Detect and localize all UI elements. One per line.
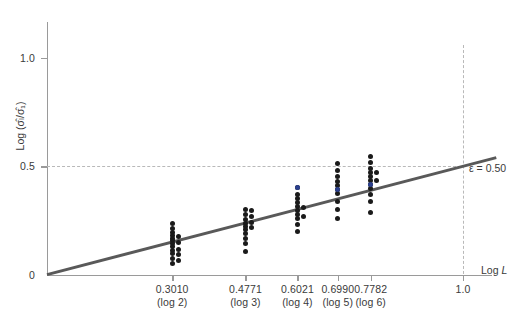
regression-line xyxy=(0,0,516,312)
data-point xyxy=(249,220,254,225)
data-point xyxy=(176,247,181,252)
data-point xyxy=(301,205,306,210)
data-point xyxy=(295,185,300,190)
epsilon-annotation-text: ε = 0.50 xyxy=(469,162,506,174)
x-axis-tick xyxy=(371,275,372,281)
data-point xyxy=(176,240,181,245)
x-axis-tick xyxy=(172,275,173,281)
data-point xyxy=(176,258,181,263)
x-axis-tick-sublabel: (log 2) xyxy=(140,296,204,309)
y-axis-title-text: Log (σ̂ₗ/σ̂₁) xyxy=(14,102,26,151)
y-axis-tick xyxy=(41,58,47,59)
x-axis-title: Log L xyxy=(481,264,507,276)
scatter-plot-figure: 00.51.00.3010(log 2)0.4771(log 3)0.6021(… xyxy=(0,0,516,312)
y-axis-tick-label: 1.0 xyxy=(5,52,35,64)
data-point xyxy=(176,234,181,239)
x-axis-tick-label: 0.3010(log 2) xyxy=(140,283,204,309)
y-axis-tick xyxy=(41,166,47,167)
data-point xyxy=(243,249,248,254)
x-axis-tick xyxy=(245,275,246,281)
x-axis-tick xyxy=(463,275,464,281)
y-axis-tick-label: 0 xyxy=(5,269,35,281)
epsilon-annotation: ε = 0.50 xyxy=(469,162,506,174)
data-point xyxy=(170,261,175,266)
x-axis-title-prefix: Log xyxy=(481,264,501,276)
data-point xyxy=(176,252,181,257)
y-axis-title: Log (σ̂ₗ/σ̂₁) xyxy=(14,81,26,171)
x-axis-tick-value: 0.4771 xyxy=(229,283,262,295)
x-axis-tick-value: 0.3010 xyxy=(156,283,189,295)
x-axis-tick xyxy=(297,275,298,281)
x-axis-title-variable: L xyxy=(501,264,507,276)
regression-line-stroke xyxy=(47,158,496,275)
x-axis-tick-value: 0.7782 xyxy=(354,283,387,295)
x-axis-tick xyxy=(338,275,339,281)
x-axis-tick-sublabel: (log 6) xyxy=(339,296,403,309)
x-axis-tick-value: 1.0 xyxy=(456,283,471,295)
x-axis-tick-label: 0.7782(log 6) xyxy=(339,283,403,309)
x-axis-tick-label: 1.0 xyxy=(431,283,495,296)
